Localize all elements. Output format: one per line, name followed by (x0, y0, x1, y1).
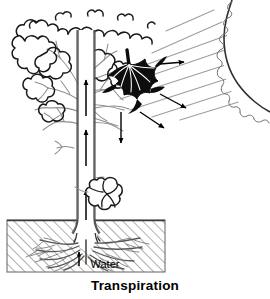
sun-icon (217, 0, 270, 123)
transpiration-diagram: Water Transpiration (0, 0, 270, 299)
water-label: Water (70, 258, 140, 270)
highlighted-leaf (102, 50, 167, 114)
diagram-ink-layer (0, 0, 270, 299)
figure-caption: Transpiration (0, 278, 270, 293)
